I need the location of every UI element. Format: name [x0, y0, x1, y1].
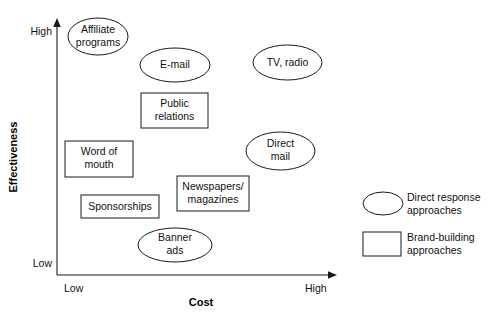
y-axis-low-label: Low	[33, 257, 53, 269]
node-label-line2: magazines	[188, 193, 239, 205]
legend-label-line1: Direct response	[407, 191, 481, 203]
node-word-of-mouth[interactable]: Word of mouth	[65, 141, 133, 177]
node-label-line2: mouth	[84, 158, 113, 170]
node-label-line1: Public	[160, 97, 189, 109]
node-label-line1: Banner	[158, 231, 192, 243]
node-label-line1: Affiliate	[81, 23, 115, 35]
node-public-relations[interactable]: Public relations	[141, 93, 208, 128]
y-axis-title: Effectiveness	[7, 122, 19, 193]
x-axis-arrowhead-icon	[328, 271, 337, 279]
node-label-line1: Newspapers/	[182, 180, 243, 192]
node-email[interactable]: E-mail	[140, 48, 210, 82]
node-tv-radio[interactable]: TV, radio	[253, 45, 322, 80]
node-label-line1: Direct	[267, 137, 295, 149]
legend-item-direct-response[interactable]: Direct response approaches	[363, 191, 481, 216]
x-axis-low-label: Low	[64, 282, 84, 294]
node-label-line1: E-mail	[160, 58, 190, 70]
node-label-line1: TV, radio	[267, 56, 309, 68]
x-axis-title: Cost	[189, 296, 214, 308]
legend-label-line1: Brand-building	[407, 231, 475, 243]
node-label-line2: programs	[76, 36, 120, 48]
positioning-diagram: High Low Low High Effectiveness Cost Aff…	[0, 0, 490, 321]
node-direct-mail[interactable]: Direct mail	[246, 132, 315, 170]
node-label-line1: Word of	[81, 145, 118, 157]
node-affiliate-programs[interactable]: Affiliate programs	[68, 18, 128, 55]
legend-label-line2: approaches	[407, 244, 462, 256]
diagram-canvas: High Low Low High Effectiveness Cost Aff…	[0, 0, 490, 321]
x-axis-high-label: High	[305, 282, 327, 294]
legend: Direct response approaches Brand-buildin…	[363, 191, 481, 256]
legend-label-line2: approaches	[407, 204, 462, 216]
y-axis-arrowhead-icon	[53, 18, 61, 27]
legend-rect-swatch-icon	[363, 232, 401, 256]
y-axis-high-label: High	[30, 25, 52, 37]
node-newspapers-magazines[interactable]: Newspapers/ magazines	[177, 176, 249, 211]
node-label-line2: mail	[271, 150, 290, 162]
node-label-line2: ads	[167, 244, 184, 256]
legend-item-brand-building[interactable]: Brand-building approaches	[363, 231, 475, 256]
node-label-line1: Sponsorships	[88, 200, 152, 212]
node-sponsorships[interactable]: Sponsorships	[81, 195, 159, 218]
legend-ellipse-swatch-icon	[363, 192, 403, 215]
node-label-line2: relations	[155, 110, 195, 122]
node-banner-ads[interactable]: Banner ads	[138, 228, 212, 262]
